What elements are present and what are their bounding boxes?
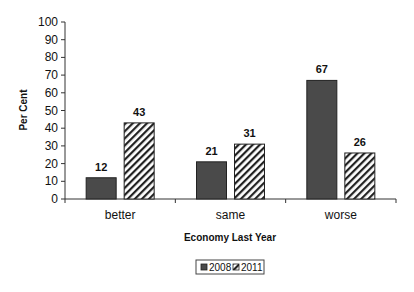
bar-2011-worse bbox=[345, 153, 375, 199]
y-tick-label: 30 bbox=[45, 139, 59, 153]
bar-2008-worse bbox=[307, 80, 337, 199]
x-axis: bettersameworse bbox=[65, 199, 396, 222]
data-label: 21 bbox=[205, 145, 217, 157]
y-tick-label: 80 bbox=[45, 50, 59, 64]
data-label: 67 bbox=[316, 63, 328, 75]
x-category-label: same bbox=[216, 208, 246, 222]
y-tick-label: 10 bbox=[45, 174, 59, 188]
legend-label-2008: 2008 bbox=[209, 262, 232, 273]
data-label: 31 bbox=[243, 127, 255, 139]
legend-swatch-2008 bbox=[201, 264, 207, 270]
legend: 20082011 bbox=[196, 260, 264, 274]
y-tick-label: 60 bbox=[45, 86, 59, 100]
legend-label-2011: 2011 bbox=[241, 262, 263, 273]
y-axis-title: Per Cent bbox=[18, 89, 29, 131]
x-category-label: better bbox=[105, 208, 136, 222]
legend-swatch-2011 bbox=[233, 264, 239, 270]
y-tick-label: 0 bbox=[51, 192, 58, 206]
data-label: 43 bbox=[133, 106, 145, 118]
bars bbox=[86, 80, 375, 199]
y-tick-label: 50 bbox=[45, 104, 59, 118]
bar-2008-same bbox=[197, 162, 227, 199]
y-tick-label: 40 bbox=[45, 121, 59, 135]
y-axis: 0102030405060708090100 bbox=[38, 15, 65, 206]
y-tick-label: 20 bbox=[45, 157, 59, 171]
bar-2008-better bbox=[86, 178, 116, 199]
bar-2011-better bbox=[124, 123, 154, 199]
data-label: 26 bbox=[354, 136, 366, 148]
data-label: 12 bbox=[95, 161, 107, 173]
y-tick-label: 90 bbox=[45, 33, 59, 47]
bar-chart: 0102030405060708090100 bettersameworse 1… bbox=[0, 0, 414, 292]
y-tick-label: 70 bbox=[45, 68, 59, 82]
y-tick-label: 100 bbox=[38, 15, 58, 29]
bar-2011-same bbox=[235, 144, 265, 199]
x-category-label: worse bbox=[324, 208, 357, 222]
x-axis-title: Economy Last Year bbox=[184, 232, 276, 243]
